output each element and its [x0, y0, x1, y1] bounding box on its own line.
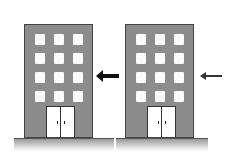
window — [155, 34, 165, 45]
window — [174, 53, 184, 64]
window — [174, 34, 184, 45]
arrow-left-icon — [102, 74, 119, 78]
double-door — [46, 106, 75, 137]
window — [174, 91, 184, 102]
window — [54, 72, 64, 83]
window — [73, 34, 83, 45]
window — [54, 53, 64, 64]
window — [136, 91, 146, 102]
arrow-left-icon — [205, 75, 222, 77]
window — [73, 91, 83, 102]
building-left — [24, 24, 93, 138]
building-right — [125, 24, 194, 138]
window — [136, 72, 146, 83]
window — [54, 91, 64, 102]
window — [174, 72, 184, 83]
ground-right — [116, 138, 208, 151]
window — [54, 34, 64, 45]
window — [35, 34, 45, 45]
window — [136, 34, 146, 45]
window — [73, 72, 83, 83]
window — [136, 53, 146, 64]
window — [155, 53, 165, 64]
window — [35, 91, 45, 102]
window — [35, 72, 45, 83]
ground-left — [14, 138, 114, 151]
window — [35, 53, 45, 64]
window — [155, 91, 165, 102]
window — [155, 72, 165, 83]
window — [73, 53, 83, 64]
double-door — [147, 106, 176, 137]
